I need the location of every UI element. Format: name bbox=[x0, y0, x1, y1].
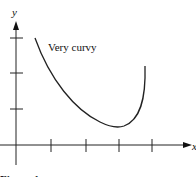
y-axis-arrow-icon bbox=[13, 21, 19, 30]
x-axis-label: x bbox=[191, 140, 196, 152]
y-axis-label: y bbox=[11, 6, 17, 18]
curve-label: Very curvy bbox=[48, 41, 97, 53]
chart-canvas: y x Very curvy Figure 1 bbox=[0, 0, 196, 177]
figure-caption: Figure 1 bbox=[0, 173, 39, 177]
x-axis-arrow-icon bbox=[183, 142, 192, 148]
